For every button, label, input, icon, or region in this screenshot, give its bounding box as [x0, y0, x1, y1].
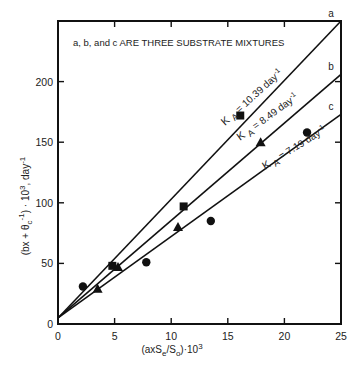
fit-lines — [58, 21, 341, 318]
x-tick-label: 20 — [279, 330, 291, 342]
x-tick-label: 0 — [55, 330, 61, 342]
line-labels: aK A = 10.39 day-1bK A = 8.49 day-1cK A … — [218, 8, 334, 174]
square-marker — [180, 202, 188, 210]
x-axis-ticks: 0510152025 — [55, 21, 347, 342]
kinetics-scatter-chart: 0510152025 050100150200 aK A = 10.39 day… — [0, 0, 360, 370]
x-tick-label: 25 — [335, 330, 347, 342]
triangle-marker — [93, 284, 103, 293]
rate-constant-label-c: K A = 7.19 day-1 — [260, 123, 329, 174]
line-label-b: b — [328, 61, 334, 72]
triangle-marker — [256, 137, 266, 146]
x-tick-label: 15 — [222, 330, 234, 342]
circle-marker — [207, 217, 215, 225]
y-tick-label: 150 — [35, 136, 53, 148]
y-tick-label: 50 — [41, 257, 53, 269]
y-tick-label: 200 — [35, 76, 53, 88]
line-label-a: a — [328, 8, 334, 19]
line-label-c: c — [329, 101, 334, 112]
fit-line-a — [58, 21, 341, 318]
circle-marker — [79, 282, 87, 290]
chart-annotation: a, b, and c ARE THREE SUBSTRATE MIXTURES — [73, 37, 284, 48]
y-tick-label: 0 — [47, 318, 53, 330]
circle-marker — [142, 258, 150, 266]
x-tick-label: 5 — [112, 330, 118, 342]
x-axis-title: (axSe/So)·103 — [141, 342, 203, 358]
x-tick-label: 10 — [165, 330, 177, 342]
fit-line-b — [58, 74, 341, 318]
y-tick-label: 100 — [35, 197, 53, 209]
triangle-marker — [173, 222, 183, 231]
data-markers — [79, 112, 312, 293]
y-axis-title: (bx + θc-1) · 103, day-1 — [17, 156, 34, 255]
